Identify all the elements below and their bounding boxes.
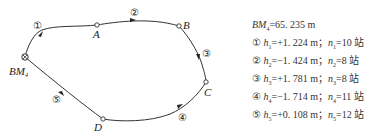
segment-label-3: ③ [202, 48, 211, 59]
point-label-c: C [204, 86, 212, 98]
h-value: =+1. 781 m； [272, 73, 329, 84]
benchmark-elevation: BM4=65. 235 m [252, 16, 384, 34]
point-b-marker-icon [177, 24, 181, 28]
segment-row-1: ① h1=+1. 224 m；n1=10 站 [252, 34, 384, 52]
n-value: =11 站 [336, 91, 364, 102]
arrow-icon-seg4 [177, 104, 183, 109]
point-label-b: B [183, 19, 190, 31]
row-num: ② [252, 55, 261, 66]
leveling-route-diagram: BM4 A B C D ① ② ③ ④ ⑤ [0, 0, 230, 136]
row-num: ③ [252, 73, 261, 84]
segment-label-1: ① [33, 20, 42, 31]
h-value: =+0. 108 m； [272, 109, 329, 120]
n-value: =8 站 [336, 73, 359, 84]
point-label-a: A [92, 28, 100, 40]
segment-row-4: ④ h4=−1. 714 m；n4=11 站 [252, 88, 384, 106]
row-num: ⑤ [252, 109, 261, 120]
n-value: =10 站 [336, 37, 364, 48]
point-label-bm: BM4 [9, 65, 28, 78]
segment-label-4: ④ [178, 112, 187, 123]
h-value: =−1. 424 m； [272, 55, 329, 66]
segment-label-5: ⑤ [52, 94, 61, 105]
benchmark-name: BM [252, 19, 266, 30]
segment-label-2: ② [130, 7, 139, 18]
row-num: ④ [252, 91, 261, 102]
row-num: ① [252, 37, 261, 48]
n-value: =8 站 [336, 55, 359, 66]
leveling-data-legend: BM4=65. 235 m ① h1=+1. 224 m；n1=10 站 ② h… [252, 16, 384, 124]
segment-row-2: ② h2=−1. 424 m；n2=8 站 [252, 52, 384, 70]
n-value: =12 站 [336, 109, 364, 120]
arrow-icon-seg3 [196, 54, 200, 60]
point-c-marker-icon [204, 80, 208, 84]
segment-row-3: ③ h3=+1. 781 m；n3=8 站 [252, 70, 384, 88]
h-value: =+1. 224 m； [272, 37, 329, 48]
h-value: =−1. 714 m； [272, 91, 329, 102]
point-label-d: D [93, 121, 102, 133]
benchmark-marker-icon [22, 54, 28, 60]
segment-row-5: ⑤ h5=+0. 108 m；n5=12 站 [252, 106, 384, 124]
benchmark-value: =65. 235 m [269, 19, 315, 30]
point-a-marker-icon [95, 23, 99, 27]
